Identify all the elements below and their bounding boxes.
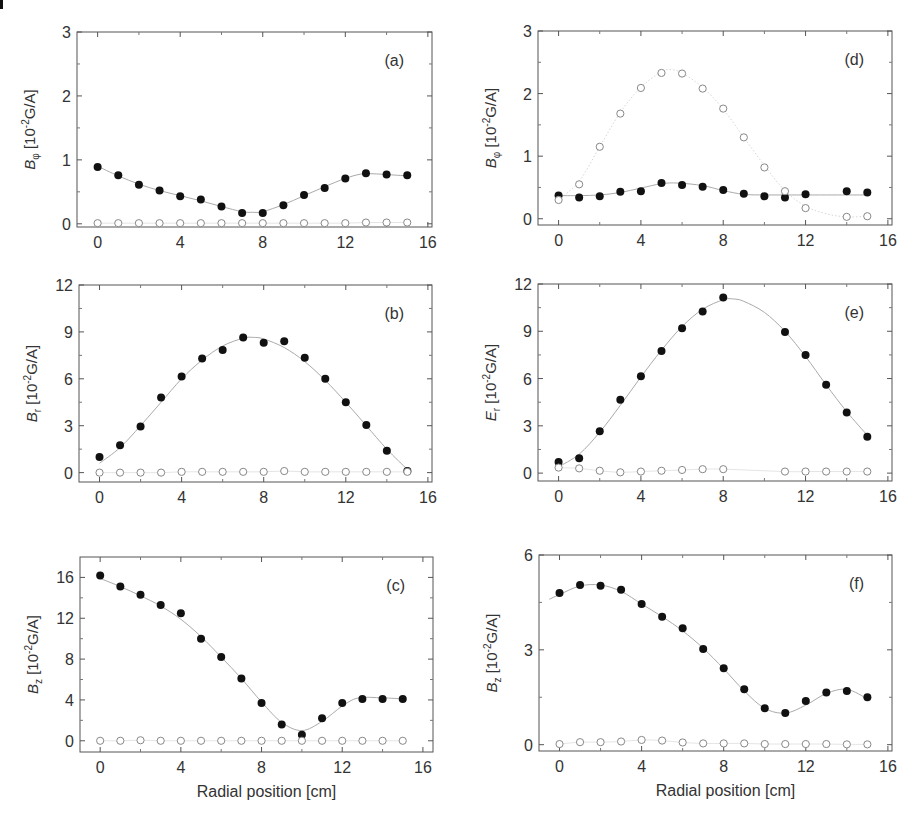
data-point-open <box>637 468 644 475</box>
fit-curve <box>559 299 868 467</box>
data-point-open <box>359 737 366 744</box>
data-point-open <box>300 220 307 227</box>
data-point-filled <box>96 453 104 461</box>
fit-curve <box>100 578 403 730</box>
data-point-open <box>864 213 871 220</box>
data-point-filled <box>278 720 286 728</box>
data-point-open <box>781 188 788 195</box>
figure-canvas: 04812160123Bφ [10-2G/A](a)0481216036912B… <box>0 0 917 815</box>
y-tick-label: 0 <box>523 465 532 482</box>
x-axis-title: Radial position [cm] <box>197 783 337 800</box>
data-point-open <box>658 467 665 474</box>
y-tick-label: 6 <box>524 547 533 564</box>
data-point-open <box>637 84 644 91</box>
data-point-filled <box>96 571 104 579</box>
data-point-filled <box>259 209 267 217</box>
chart-panel-a: 04812160123Bφ [10-2G/A](a) <box>20 24 437 251</box>
x-tick-label: 8 <box>259 489 268 506</box>
data-point-open <box>843 213 850 220</box>
data-point-open <box>239 220 246 227</box>
data-point-filled <box>679 624 687 632</box>
data-point-filled <box>321 375 329 383</box>
data-point-open <box>197 220 204 227</box>
data-point-filled <box>556 589 564 597</box>
data-point-open <box>135 220 142 227</box>
data-point-filled <box>616 188 624 196</box>
plot-frame <box>79 285 432 482</box>
panel-label: (f) <box>849 575 864 592</box>
data-point-open <box>178 468 185 475</box>
data-point-filled <box>822 689 830 697</box>
data-point-open <box>864 741 871 748</box>
y-axis-label: Bφ [10-2G/A] <box>481 88 502 168</box>
data-point-open <box>658 69 665 76</box>
panel-label: (e) <box>844 304 864 321</box>
data-point-filled <box>116 441 124 449</box>
data-point-filled <box>596 427 604 435</box>
data-point-filled <box>637 187 645 195</box>
fit-curve <box>98 166 408 212</box>
x-tick-label: 0 <box>93 234 102 251</box>
plot-frame <box>77 32 432 227</box>
data-point-open <box>260 468 267 475</box>
data-point-open <box>864 468 871 475</box>
data-point-filled <box>157 394 165 402</box>
y-axis-label: Bz [10-2G/A] <box>482 614 503 693</box>
open-series-line <box>560 740 868 744</box>
y-tick-label: 12 <box>514 276 532 293</box>
data-point-filled <box>575 193 583 201</box>
data-point-filled <box>802 190 810 198</box>
data-point-open <box>843 468 850 475</box>
fit-curve <box>100 337 408 469</box>
fit-curve <box>549 585 867 714</box>
data-point-open <box>116 469 123 476</box>
data-point-filled <box>321 184 329 192</box>
data-point-filled <box>279 201 287 209</box>
data-point-filled <box>657 179 665 187</box>
data-point-filled <box>362 421 370 429</box>
data-point-open <box>576 739 583 746</box>
y-tick-label: 9 <box>64 324 73 341</box>
panel-label: (c) <box>386 577 405 594</box>
data-point-open <box>318 737 325 744</box>
data-point-filled <box>280 337 288 345</box>
data-point-open <box>342 468 349 475</box>
y-tick-label: 3 <box>523 23 532 40</box>
data-point-open <box>97 737 104 744</box>
data-point-open <box>238 737 245 744</box>
open-series-line <box>559 468 868 473</box>
data-point-filled <box>596 192 604 200</box>
open-series-line <box>98 222 408 223</box>
data-point-open <box>679 739 686 746</box>
chart-panel-e: 0481216036912Er [10-2G/A](e) <box>481 276 897 505</box>
data-point-open <box>137 469 144 476</box>
data-point-filled <box>576 581 584 589</box>
y-axis-label: Br [10-2G/A] <box>22 345 43 422</box>
data-point-open <box>404 219 411 226</box>
data-point-open <box>699 85 706 92</box>
data-point-filled <box>403 171 411 179</box>
data-point-open <box>197 737 204 744</box>
data-point-filled <box>258 699 266 707</box>
panel-label: (d) <box>844 51 864 68</box>
data-point-open <box>782 740 789 747</box>
data-point-filled <box>843 408 851 416</box>
y-tick-label: 16 <box>56 569 74 586</box>
data-point-open <box>94 220 101 227</box>
data-point-filled <box>843 687 851 695</box>
data-point-open <box>157 737 164 744</box>
data-point-filled <box>217 653 225 661</box>
data-point-filled <box>197 196 205 204</box>
open-series-line <box>100 740 403 741</box>
data-point-open <box>720 466 727 473</box>
data-point-filled <box>760 192 768 200</box>
data-point-filled <box>657 347 665 355</box>
x-tick-label: 12 <box>797 758 815 775</box>
data-point-filled <box>720 664 728 672</box>
data-point-filled <box>300 191 308 199</box>
x-tick-label: 4 <box>637 758 646 775</box>
x-tick-label: 16 <box>414 759 432 776</box>
data-point-filled <box>843 187 851 195</box>
x-tick-label: 8 <box>719 232 728 249</box>
data-point-filled <box>176 192 184 200</box>
